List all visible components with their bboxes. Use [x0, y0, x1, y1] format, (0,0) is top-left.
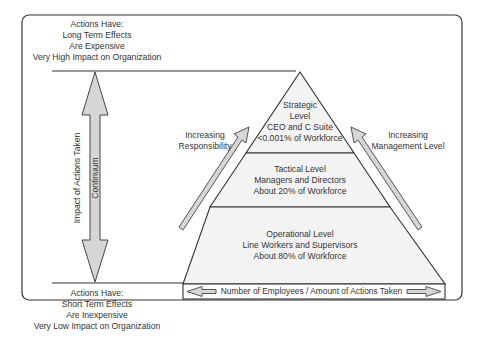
base-bar-label: Number of Employees / Amount of Actions …: [216, 286, 407, 297]
top-note-line: Are Expensive: [32, 41, 162, 52]
increasing-management-label: Increasing Management Level: [368, 130, 448, 152]
operational-line: Operational Level: [230, 229, 370, 240]
tactical-line: Tactical Level: [240, 164, 360, 175]
right-arrow-label-line: Increasing: [368, 130, 448, 141]
bottom-note-line: Short Term Effects: [32, 299, 162, 310]
operational-line: Line Workers and Supervisors: [230, 240, 370, 251]
continuum-label: Continuum: [90, 157, 100, 199]
top-note-line: Very High Impact on Organization: [32, 52, 162, 63]
tactical-line: About 20% of Workforce: [240, 186, 360, 197]
pyramid-diagram: Impact of Actions Taken Continuum Action…: [0, 0, 482, 356]
bottom-note-line: Very Low Impact on Organization: [32, 321, 162, 332]
operational-line: About 80% of Workforce: [230, 251, 370, 262]
left-arrow-label-line: Responsibility: [170, 141, 240, 152]
bottom-note-line: Are Inexpensive: [32, 310, 162, 321]
top-note: Actions Have: Long Term Effects Are Expe…: [32, 19, 162, 63]
strategic-line: Strategic: [255, 100, 345, 111]
right-arrow-label-line: Management Level: [368, 141, 448, 152]
top-note-line: Long Term Effects: [32, 30, 162, 41]
left-arrow-label-line: Increasing: [170, 130, 240, 141]
tactical-line: Managers and Directors: [240, 175, 360, 186]
operational-level-label: Operational Level Line Workers and Super…: [230, 229, 370, 262]
bottom-note: Actions Have: Short Term Effects Are Ine…: [32, 288, 162, 332]
impact-axis-label: Impact of Actions Taken: [72, 132, 82, 223]
strategic-line: CEO and C Suite: [255, 122, 345, 133]
strategic-line: <0.001% of Workforce: [255, 133, 345, 144]
increasing-responsibility-label: Increasing Responsibility: [170, 130, 240, 152]
strategic-line: Level: [255, 111, 345, 122]
tactical-level-label: Tactical Level Managers and Directors Ab…: [240, 164, 360, 197]
top-note-line: Actions Have:: [32, 19, 162, 30]
strategic-level-label: Strategic Level CEO and C Suite <0.001% …: [255, 100, 345, 144]
bottom-note-line: Actions Have:: [32, 288, 162, 299]
